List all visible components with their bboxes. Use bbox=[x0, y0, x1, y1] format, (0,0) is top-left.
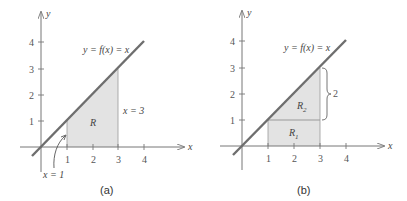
x-tick-4: 4 bbox=[142, 154, 147, 165]
x-tick-1-b: 1 bbox=[266, 153, 271, 164]
caption-b: (b) bbox=[297, 184, 310, 196]
y-axis-label-b: y bbox=[246, 7, 252, 18]
y-tick-3-b: 3 bbox=[230, 63, 235, 74]
caption-a: (a) bbox=[100, 184, 113, 196]
y-tick-4-b: 4 bbox=[230, 36, 235, 47]
pointer-arrow bbox=[54, 136, 65, 168]
y-tick-3: 3 bbox=[29, 64, 34, 75]
left-bound-label: x = 1 bbox=[42, 169, 64, 180]
x-tick-2: 2 bbox=[91, 154, 96, 165]
x-tick-3-b: 3 bbox=[318, 153, 323, 164]
panel-b: x y 1 2 3 4 1 2 3 4 y = f(x) = x R1 bbox=[220, 7, 393, 196]
panel-a: x y 1 2 3 4 1 2 3 4 y = f(x) = x R x = 3… bbox=[20, 8, 193, 196]
brace-label: 2 bbox=[333, 88, 338, 99]
y-tick-2-b: 2 bbox=[230, 89, 235, 100]
y-tick-4: 4 bbox=[29, 37, 34, 48]
y-axis-label: y bbox=[45, 8, 51, 19]
x-tick-3: 3 bbox=[116, 154, 121, 165]
region-label: R bbox=[89, 117, 96, 128]
x-tick-4-b: 4 bbox=[344, 153, 349, 164]
right-bound-label: x = 3 bbox=[122, 105, 144, 116]
x-axis-label-b: x bbox=[387, 140, 393, 151]
figure: x y 1 2 3 4 1 2 3 4 y = f(x) = x R x = 3… bbox=[0, 0, 407, 201]
x-tick-1: 1 bbox=[65, 154, 70, 165]
y-tick-1: 1 bbox=[29, 116, 34, 127]
x-axis-label: x bbox=[187, 141, 193, 152]
y-tick-2: 2 bbox=[29, 90, 34, 101]
region-r bbox=[67, 69, 118, 147]
curve-label: y = f(x) = x bbox=[82, 44, 130, 56]
curve-label-b: y = f(x) = x bbox=[283, 42, 331, 54]
y-tick-1-b: 1 bbox=[230, 115, 235, 126]
x-tick-2-b: 2 bbox=[292, 153, 297, 164]
brace bbox=[322, 68, 331, 120]
